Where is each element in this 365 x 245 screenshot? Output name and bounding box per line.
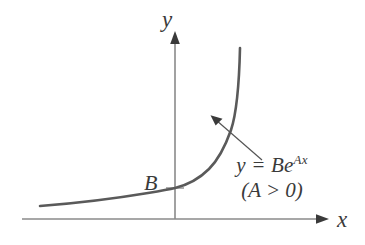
equation-formula: y = BeAx	[224, 155, 320, 176]
equation-base: y = Be	[236, 153, 293, 177]
x-axis-arrowhead	[316, 214, 329, 224]
exponential-growth-figure: y x B y = BeAx (A > 0)	[0, 0, 365, 245]
graph-canvas	[0, 0, 365, 245]
equation-condition: (A > 0)	[224, 180, 320, 201]
y-axis-label: y	[162, 8, 172, 31]
equation-exponent: Ax	[294, 152, 308, 167]
y-intercept-label: B	[144, 172, 157, 194]
x-axis-label: x	[337, 208, 347, 231]
y-axis-arrowhead	[170, 31, 180, 44]
equation-annotation: y = BeAx (A > 0)	[224, 155, 320, 201]
exponential-curve	[40, 48, 240, 206]
